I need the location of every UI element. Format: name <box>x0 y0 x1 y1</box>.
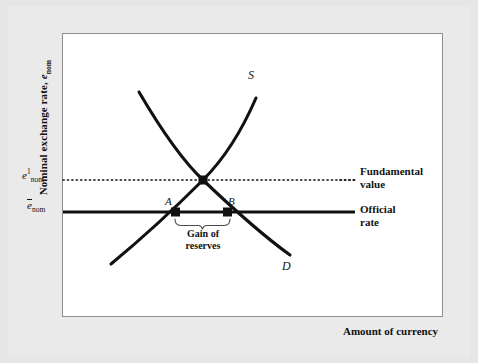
legend-official-line2: rate <box>360 216 379 228</box>
y-tick-official-rate: enom <box>27 200 45 214</box>
figure-container: Nominal exchange rate, enom e1nom enom F… <box>0 0 478 363</box>
demand-curve-label: D <box>282 259 291 274</box>
gain-of-reserves-label: Gain ofreserves <box>168 228 238 252</box>
tick-official-symbol: e <box>27 200 32 211</box>
legend-official-line1: Official <box>360 203 395 215</box>
legend-fundamental-line2: value <box>360 178 385 190</box>
y-tick-fundamental-value: e1nom <box>22 168 44 183</box>
point-a-label: A <box>165 195 172 207</box>
point-b-label: B <box>228 195 235 207</box>
gain-of-reserves-line2: reserves <box>186 240 221 251</box>
x-axis-title: Amount of currency <box>343 325 438 337</box>
legend-fundamental-value: Fundamentalvalue <box>360 165 423 192</box>
supply-curve-label: S <box>248 68 254 83</box>
y-axis-title-subscript: nom <box>44 60 53 74</box>
tick-official-subscript: nom <box>32 205 45 214</box>
y-axis-title-symbol: e <box>37 74 49 79</box>
tick-fundamental-subscript: nom <box>31 175 44 184</box>
legend-official-rate: Officialrate <box>360 203 395 230</box>
legend-fundamental-line1: Fundamental <box>360 165 423 177</box>
gain-of-reserves-line1: Gain of <box>187 228 219 239</box>
